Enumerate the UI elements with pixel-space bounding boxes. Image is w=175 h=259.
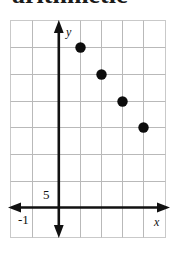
coordinate-plane: y x 5 -1 [0,0,175,259]
data-point [96,69,106,79]
x-axis-label: x [153,215,160,229]
y-tick-label-5: 5 [43,187,50,202]
figure-container: arithmetic [0,0,175,259]
data-point [138,122,148,132]
x-tick-label-minus-1: -1 [18,212,29,227]
y-axis-label: y [65,25,72,39]
data-point [117,96,127,106]
data-point [75,42,85,52]
